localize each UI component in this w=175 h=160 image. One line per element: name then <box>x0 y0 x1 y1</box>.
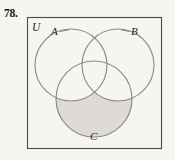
venn-diagram: U A B C <box>0 0 175 160</box>
figure-root: 78. U <box>0 0 175 160</box>
label-set-c: C <box>90 130 98 142</box>
label-set-b: B <box>131 25 138 37</box>
label-universal-set: U <box>32 21 41 33</box>
label-set-a: A <box>50 25 58 37</box>
